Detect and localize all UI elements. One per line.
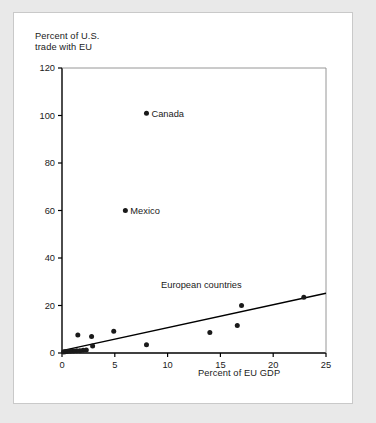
- y-tick-label: 0: [50, 348, 55, 358]
- data-point-mexico: [123, 208, 128, 213]
- annotation-canada: Canada: [151, 109, 184, 119]
- trend-line: [62, 293, 326, 350]
- scatter-plot-canvas: 0204060801001200510152025CanadaMexicoEur…: [14, 13, 354, 405]
- data-point: [61, 350, 66, 355]
- x-axis-title: Percent of EU GDP: [198, 368, 280, 379]
- x-tick-label: 25: [321, 360, 331, 370]
- data-point-canada: [144, 111, 149, 116]
- annotation-european-countries: European countries: [161, 280, 242, 290]
- y-tick-label: 80: [45, 158, 55, 168]
- data-point: [239, 303, 244, 308]
- y-tick-label: 40: [45, 253, 55, 263]
- y-axis-title-line1: Percent of U.S.: [35, 31, 99, 41]
- data-point: [235, 323, 240, 328]
- annotation-mexico: Mexico: [130, 206, 159, 216]
- data-point: [111, 329, 116, 334]
- y-tick-label: 60: [45, 206, 55, 216]
- x-tick-label: 10: [162, 360, 172, 370]
- y-axis-title: Percent of U.S.trade with EU: [35, 31, 99, 53]
- x-tick-label: 5: [112, 360, 117, 370]
- x-tick-label: 0: [59, 360, 64, 370]
- y-tick-label: 100: [39, 111, 55, 121]
- data-point: [207, 330, 212, 335]
- y-tick-label: 20: [45, 301, 55, 311]
- y-axis-title-line2: trade with EU: [35, 42, 92, 52]
- figure-frame: 0204060801001200510152025CanadaMexicoEur…: [13, 12, 353, 404]
- data-point: [89, 334, 94, 339]
- data-point: [75, 332, 80, 337]
- y-tick-label: 120: [39, 63, 55, 73]
- data-point: [144, 342, 149, 347]
- data-point: [90, 343, 95, 348]
- data-point: [301, 295, 306, 300]
